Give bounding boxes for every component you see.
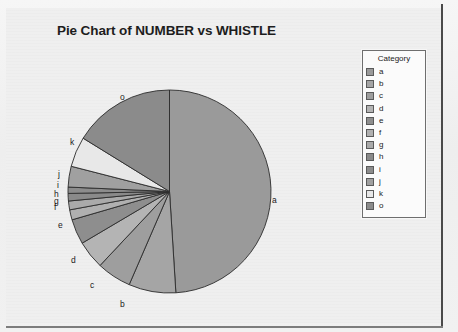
pie-slice-label: c	[90, 281, 94, 290]
legend-swatch-icon	[366, 166, 374, 174]
legend-item-label: e	[379, 117, 383, 125]
legend-item[interactable]: h	[366, 151, 424, 163]
legend-swatch-icon	[366, 92, 374, 100]
legend-item-label: j	[379, 178, 381, 186]
legend-swatch-icon	[366, 202, 374, 210]
legend-item[interactable]: g	[366, 139, 424, 151]
legend-item[interactable]: d	[366, 103, 424, 115]
legend-item-label: a	[379, 68, 383, 76]
legend-item-label: h	[379, 153, 383, 161]
pie-slice[interactable]	[170, 90, 272, 293]
legend-item-label: c	[379, 92, 383, 100]
pie-slice-label: i	[57, 181, 59, 190]
chart-screenshot: Pie Chart of NUMBER vs WHISTLE abcdefghi…	[0, 0, 458, 332]
legend-swatch-icon	[366, 117, 374, 125]
legend-swatch-icon	[366, 190, 374, 198]
legend-swatch-icon	[366, 153, 374, 161]
legend-swatch-icon	[366, 80, 374, 88]
legend-item[interactable]: f	[366, 127, 424, 139]
pie-slice-label: o	[120, 93, 125, 102]
pie-slice-label: k	[70, 138, 74, 147]
legend-swatch-icon	[366, 68, 374, 76]
pie-slice-label: a	[272, 196, 277, 205]
legend-item-label: k	[379, 190, 383, 198]
legend-swatch-icon	[366, 141, 374, 149]
legend-item[interactable]: c	[366, 90, 424, 102]
legend-item-label: g	[379, 141, 383, 149]
legend-swatch-icon	[366, 105, 374, 113]
legend-items: abcdefghijko	[366, 66, 424, 212]
legend-swatch-icon	[366, 178, 374, 186]
legend-item[interactable]: j	[366, 176, 424, 188]
legend-item[interactable]: e	[366, 115, 424, 127]
pie-slice-label: h	[54, 190, 59, 199]
legend-item-label: o	[379, 202, 383, 210]
legend-item[interactable]: k	[366, 188, 424, 200]
legend-item[interactable]: o	[366, 200, 424, 212]
legend-item[interactable]: a	[366, 66, 424, 78]
pie-slice-label: j	[58, 170, 60, 179]
legend-title: Category	[363, 54, 425, 63]
legend-item-label: b	[379, 80, 383, 88]
legend-box: Category abcdefghijko	[362, 50, 426, 218]
legend-item[interactable]: b	[366, 78, 424, 90]
legend-item-label: i	[379, 166, 381, 174]
pie-slice-label: d	[71, 256, 76, 265]
pie-slice-label: e	[58, 221, 63, 230]
legend-item-label: d	[379, 105, 383, 113]
pie-slice-label: b	[120, 300, 125, 309]
legend-item-label: f	[379, 129, 381, 137]
legend-item[interactable]: i	[366, 164, 424, 176]
legend-swatch-icon	[366, 129, 374, 137]
